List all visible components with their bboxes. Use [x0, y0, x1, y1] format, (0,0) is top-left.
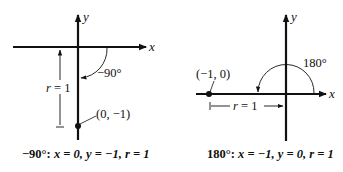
point-leader [210, 81, 214, 92]
y-axis-label: y [289, 9, 297, 24]
diagram-180: x y 180° (−1, 0) r = 1 180°: x = −1, y =… [196, 9, 335, 161]
angle-label: −90° [97, 66, 122, 80]
point-marker [206, 91, 212, 97]
angle-label: 180° [303, 56, 327, 70]
diagram-neg90: x y −90° r = 1 (0, −1) −90°: x = 0, y = … [13, 9, 155, 161]
y-axis-label: y [81, 9, 89, 24]
x-axis-label: x [328, 86, 335, 101]
x-axis-label: x [148, 39, 155, 54]
figure: x y −90° r = 1 (0, −1) −90°: x = 0, y = … [0, 0, 343, 172]
radius-label: r = 1 [233, 99, 257, 113]
radius-label: r = 1 [46, 81, 70, 95]
point-label: (−1, 0) [196, 67, 230, 81]
caption: 180°: x = −1, y = 0, r = 1 [207, 147, 334, 161]
point-label: (0, −1) [96, 107, 130, 121]
point-leader [80, 116, 96, 124]
caption: −90°: x = 0, y = −1, r = 1 [22, 147, 150, 161]
